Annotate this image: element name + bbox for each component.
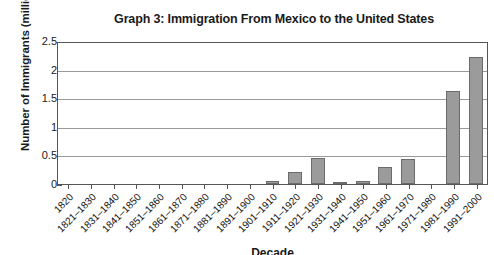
x-tick-mark <box>91 185 92 189</box>
x-tick-mark <box>431 185 432 189</box>
bar-slot <box>126 43 149 184</box>
bar <box>378 167 392 184</box>
bar <box>333 182 347 184</box>
bar <box>401 159 415 184</box>
x-tick-mark <box>182 185 183 189</box>
x-tick-mark <box>295 185 296 189</box>
bar-slot <box>193 43 216 184</box>
x-tick-mark <box>227 185 228 189</box>
x-tick-mark <box>341 185 342 189</box>
x-label-slot: 1991–2000 <box>465 190 488 250</box>
bar-slot <box>261 43 284 184</box>
bar-series <box>58 43 487 184</box>
bar <box>446 91 460 184</box>
x-tick-mark <box>250 185 251 189</box>
bar-slot <box>374 43 397 184</box>
bar-slot <box>464 43 487 184</box>
bar-slot <box>148 43 171 184</box>
bar-slot <box>419 43 442 184</box>
y-tick-label: 1 <box>27 122 57 133</box>
chart-title: Graph 3: Immigration From Mexico to the … <box>56 12 492 26</box>
bar <box>356 181 370 184</box>
y-tick-label: 0 <box>27 179 57 190</box>
x-tick-mark <box>114 185 115 189</box>
bar <box>266 181 280 184</box>
x-tick-mark <box>159 185 160 189</box>
bar-slot <box>284 43 307 184</box>
bar <box>469 57 483 184</box>
x-tick-mark <box>386 185 387 189</box>
bar-slot <box>58 43 81 184</box>
y-tick-label: 2 <box>27 65 57 76</box>
plot-area <box>57 42 488 185</box>
bar-slot <box>216 43 239 184</box>
x-tick-mark <box>477 185 478 189</box>
bar-slot <box>239 43 262 184</box>
bar-slot <box>329 43 352 184</box>
bar-slot <box>306 43 329 184</box>
bar-slot <box>397 43 420 184</box>
x-tick-mark <box>204 185 205 189</box>
y-tick-label: 2.5 <box>27 36 57 47</box>
x-tick-mark <box>454 185 455 189</box>
bar <box>311 158 325 184</box>
chart-figure: Number of Immigrants (millions) Graph 3:… <box>0 0 494 255</box>
bar-slot <box>171 43 194 184</box>
x-axis-tick-labels: 18201821–18301831–18401841–18501851–1860… <box>57 190 488 250</box>
bar-slot <box>81 43 104 184</box>
x-tick-mark <box>136 185 137 189</box>
x-tick-mark <box>273 185 274 189</box>
x-tick-mark <box>318 185 319 189</box>
bar-slot <box>352 43 375 184</box>
y-tick-label: 1.5 <box>27 93 57 104</box>
bar <box>288 172 302 184</box>
bar-slot <box>442 43 465 184</box>
x-tick-mark <box>68 185 69 189</box>
x-tick-mark <box>363 185 364 189</box>
y-axis-ticks: 00.511.522.5 <box>20 42 57 185</box>
x-tick-mark <box>409 185 410 189</box>
y-tick-label: 0.5 <box>27 150 57 161</box>
bar-slot <box>103 43 126 184</box>
x-axis-title: Decade <box>57 246 488 255</box>
